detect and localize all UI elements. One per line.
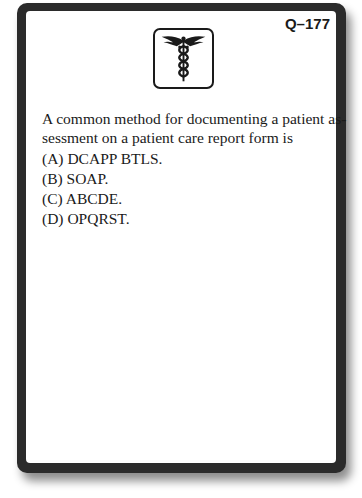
question-stem: A common method for documenting a patien…: [42, 109, 347, 147]
option-text: ABCDE.: [66, 190, 122, 207]
caduceus-icon: [153, 28, 214, 89]
option-label: (A): [42, 150, 64, 167]
option-text: OPQRST.: [67, 210, 129, 227]
question-stem-line: A common method for documenting a patien…: [42, 109, 347, 128]
option-label: (D): [42, 210, 64, 227]
answer-option-d: (D) OPQRST.: [42, 209, 347, 229]
option-label: (B): [42, 170, 63, 187]
option-text: DCAPP BTLS.: [67, 150, 162, 167]
flashcard: Q–177 A common method for documenting a …: [17, 3, 346, 473]
answer-option-a: (A) DCAPP BTLS.: [42, 149, 347, 169]
card-face: Q–177 A common method for documenting a …: [26, 11, 336, 463]
option-label: (C): [42, 190, 63, 207]
answer-option-b: (B) SOAP.: [42, 169, 347, 189]
option-text: SOAP.: [67, 170, 109, 187]
answer-option-c: (C) ABCDE.: [42, 189, 347, 209]
question-number: Q–177: [285, 15, 330, 32]
question-stem-line: sessment on a patient care report form i…: [42, 128, 347, 147]
question-block: A common method for documenting a patien…: [42, 109, 347, 229]
